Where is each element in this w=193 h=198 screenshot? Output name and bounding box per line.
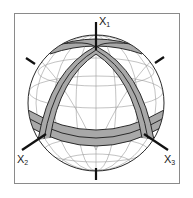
tick-upper-left <box>26 58 35 64</box>
axis-label-x3: X3 <box>164 154 175 166</box>
axis-label-x1: X1 <box>99 16 110 28</box>
axis-label-x2: X2 <box>17 154 28 166</box>
tick-upper-right <box>155 57 164 63</box>
sphere-diagram <box>0 0 193 198</box>
